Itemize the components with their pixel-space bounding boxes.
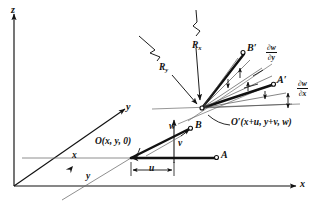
v-leader <box>146 136 181 156</box>
ray-2 <box>202 68 262 108</box>
ray-6 <box>202 58 238 108</box>
radius-leaders <box>139 10 200 104</box>
y-distance-label: y <box>86 172 90 182</box>
point-O-prime-label: O′(x+u, y+v, w) <box>231 118 292 128</box>
deformation-diagram: z y x O(x, y, 0) O′(x+u, y+v, w) A B A′ … <box>0 0 326 202</box>
Ry-leader-break <box>139 36 160 61</box>
u-label: u <box>149 164 154 174</box>
y-distance-line <box>62 158 131 200</box>
y-axis-label: y <box>126 102 130 112</box>
point-O-label: O(x, y, 0) <box>95 137 131 147</box>
Rx-label: Rx <box>192 41 202 51</box>
diagram-canvas <box>0 0 326 202</box>
y-axis <box>14 109 125 186</box>
point-A <box>215 156 219 160</box>
deformed-elements <box>152 51 300 125</box>
point-B-label: B <box>195 120 202 130</box>
dw-dy-label: ∂w ∂y <box>266 44 277 61</box>
point-B-prime-label: B′ <box>247 43 256 53</box>
ray-3 <box>202 76 272 108</box>
axis-lines <box>14 14 296 186</box>
w-label: w <box>169 122 175 132</box>
point-O-prime <box>200 106 204 110</box>
point-A-prime-label: A′ <box>277 75 286 85</box>
projection-lines <box>22 155 139 200</box>
Rx-leader-break <box>193 10 200 36</box>
z-axis-label: z <box>11 5 15 15</box>
point-A-label: A <box>221 150 228 160</box>
dw-dx-label: ∂w ∂x <box>297 80 308 97</box>
Ry-label: Ry <box>159 63 168 73</box>
O-prime-leader-curve <box>208 115 230 125</box>
segment-OA-prime <box>202 85 272 108</box>
point-A-prime <box>272 82 276 86</box>
v-label: v <box>178 139 182 149</box>
y-distance-arrowhead <box>66 166 73 173</box>
point-B <box>189 126 193 130</box>
Rx-leader-line <box>196 48 200 100</box>
x-distance-label: x <box>72 151 77 161</box>
Ry-leader-line <box>172 75 197 104</box>
x-axis-label: x <box>300 179 305 189</box>
point-B-prime <box>241 51 245 55</box>
slope-mark-b <box>244 84 258 88</box>
